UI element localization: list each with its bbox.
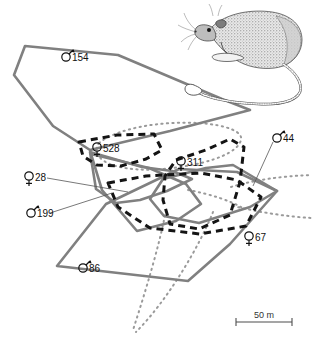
rat-eye-icon [207,28,211,32]
label-528-text: 528 [103,143,120,154]
home-range-map-svg: 154 528 28 199 311 44 67 [0,0,314,338]
label-86-text: 86 [89,263,101,274]
label-154-text: 154 [72,52,89,63]
label-199-text: 199 [37,208,54,219]
scale-bar-label: 50 m [254,310,274,320]
home-range-figure: 154 528 28 199 311 44 67 [0,0,314,338]
label-311-text: 311 [187,157,203,168]
label-28-text: 28 [35,172,47,183]
label-44-text: 44 [283,133,295,144]
label-67-text: 67 [255,232,267,243]
